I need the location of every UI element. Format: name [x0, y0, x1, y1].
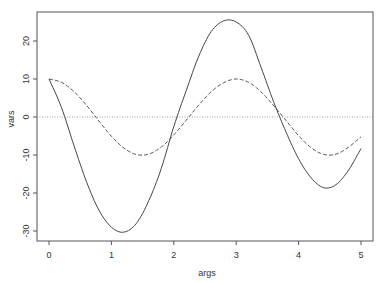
x-tick-label: 5: [358, 250, 363, 260]
x-tick-label: 4: [296, 250, 301, 260]
y-tick-label: 0: [21, 114, 31, 119]
y-tick-label: -20: [21, 186, 31, 199]
x-tick-label: 1: [109, 250, 114, 260]
x-tick-label: 2: [171, 250, 176, 260]
y-tick-label: -30: [21, 224, 31, 237]
plot-frame: [37, 12, 373, 241]
y-tick-label: -10: [21, 148, 31, 161]
series-solid-line: [49, 20, 361, 232]
x-axis: 012345: [46, 241, 363, 260]
line-chart: -30-20-1001020 012345 args vars: [0, 0, 380, 283]
x-axis-title: args: [198, 268, 216, 278]
x-tick-label: 3: [234, 250, 239, 260]
x-tick-label: 0: [46, 250, 51, 260]
y-axis: -30-20-1001020: [21, 36, 37, 238]
y-tick-label: 20: [21, 36, 31, 46]
y-axis-title: vars: [6, 110, 16, 128]
y-tick-label: 10: [21, 74, 31, 84]
